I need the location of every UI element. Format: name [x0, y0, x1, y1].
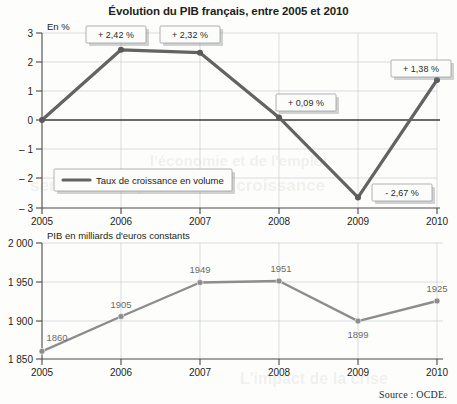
gdp-ytick-1900: 1 900: [8, 316, 33, 327]
growth-callout-label-2007: + 2,32 %: [172, 30, 208, 40]
figure-page: l'économie et de l'emploi sensible : l'é…: [0, 0, 457, 404]
gdp-ytick-1950: 1 950: [8, 277, 33, 288]
growth-ytick-2: 2: [27, 57, 33, 68]
gdp-x-axis: 2005 2006 2007 2008 2009 2010: [31, 359, 449, 378]
growth-ytick-3: 3: [27, 28, 33, 39]
growth-xtick-2008: 2008: [268, 216, 291, 227]
gdp-series-line: [42, 281, 437, 351]
gdp-volume-svg: 2 000 1 950 1 900 1 850 PIB en milliards…: [0, 228, 457, 378]
gdp-point-label-2006: 1905: [110, 299, 131, 310]
growth-axis-name: En %: [47, 21, 70, 32]
growth-legend-label: Taux de croissance en volume: [96, 175, 224, 186]
growth-callout-2008: + 0,09 %: [276, 94, 339, 114]
gdp-xtick-2010: 2010: [426, 367, 449, 378]
growth-callout-2006: + 2,42 %: [86, 26, 149, 46]
source-note: Source : OCDE.: [379, 389, 447, 400]
gdp-ytick-2000: 2 000: [8, 238, 33, 249]
growth-y-axis: 3 2 1 0 – 1 – 2 – 3: [19, 28, 42, 214]
growth-ytick-m2: – 2: [19, 173, 33, 184]
growth-callout-2010: + 1,38 %: [391, 60, 454, 80]
gdp-point-label-2005: 1860: [46, 332, 67, 343]
chart-title: Évolution du PIB français, entre 2005 et…: [0, 5, 457, 17]
gdp-xtick-2007: 2007: [189, 367, 212, 378]
growth-callout-2009: - 2,67 %: [372, 184, 435, 204]
gdp-xtick-2008: 2008: [268, 367, 291, 378]
growth-xtick-2005: 2005: [31, 216, 54, 227]
gdp-ytick-1850: 1 850: [8, 354, 33, 365]
growth-callout-label-2009: - 2,67 %: [385, 188, 419, 198]
gdp-xtick-2005: 2005: [31, 367, 54, 378]
growth-callout-label-2006: + 2,42 %: [98, 30, 134, 40]
growth-callout-label-2010: + 1,38 %: [403, 64, 439, 74]
growth-rate-svg: 3 2 1 0 – 1 – 2 – 3 En % 2005: [0, 18, 457, 228]
gdp-point-label-2009: 1899: [347, 329, 368, 340]
growth-callout-2007: + 2,32 %: [160, 26, 223, 46]
growth-ytick-m3: – 3: [19, 203, 33, 214]
gdp-y-axis: 2 000 1 950 1 900 1 850: [8, 238, 42, 365]
growth-xtick-2007: 2007: [189, 216, 212, 227]
gdp-xtick-2006: 2006: [110, 367, 133, 378]
growth-xtick-2010: 2010: [426, 216, 449, 227]
growth-ytick-1: 1: [27, 86, 33, 97]
growth-ytick-0: 0: [27, 115, 33, 126]
growth-legend[interactable]: Taux de croissance en volume: [54, 169, 235, 194]
growth-xtick-2009: 2009: [347, 216, 370, 227]
gdp-xtick-2009: 2009: [347, 367, 370, 378]
gdp-point-label-2008: 1951: [270, 263, 291, 274]
gdp-point-label-2010: 1925: [426, 283, 447, 294]
growth-x-axis: 2005 2006 2007 2008 2009 2010: [31, 208, 449, 227]
gdp-axis-name: PIB en milliards d'euros constants: [47, 230, 190, 241]
gdp-volume-chart: 2 000 1 950 1 900 1 850 PIB en milliards…: [0, 228, 457, 378]
growth-ytick-m1: – 1: [19, 144, 33, 155]
growth-callout-label-2008: + 0,09 %: [288, 98, 324, 108]
gdp-grid: [42, 243, 443, 359]
growth-xtick-2006: 2006: [110, 216, 133, 227]
gdp-point-label-2007: 1949: [189, 264, 210, 275]
growth-rate-chart: 3 2 1 0 – 1 – 2 – 3 En % 2005: [0, 18, 457, 228]
